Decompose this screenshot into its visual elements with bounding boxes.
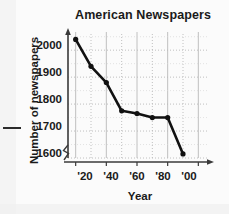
data-point [104,80,109,85]
data-point [165,115,170,120]
data-point [88,64,93,69]
data-series-line [76,39,183,154]
data-point [134,111,139,116]
data-series-markers [73,37,186,157]
data-point [119,108,124,113]
data-point [180,151,185,156]
plot-area [0,0,229,214]
gridlines [68,32,208,158]
chart-screenshot: American Newspapers Number of newspapers… [0,0,229,214]
data-point [73,37,78,42]
data-point [150,115,155,120]
